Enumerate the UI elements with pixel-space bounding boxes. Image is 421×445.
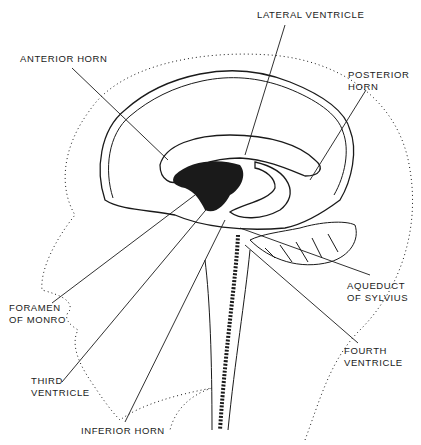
leader-anterior-horn <box>72 68 168 160</box>
ventricles-diagram: LATERAL VENTRICLE ANTERIOR HORN POSTERIO… <box>0 0 421 445</box>
label-inferior-horn: INFERIOR HORN <box>81 425 165 437</box>
label-lateral-ventricle: LATERAL VENTRICLE <box>257 9 364 21</box>
label-foramen-of-monro: FORAMEN OF MONRO <box>9 302 66 326</box>
leader-third-ventricle <box>62 205 210 382</box>
head-outline <box>42 54 413 440</box>
leader-fourth-ventricle <box>245 245 358 343</box>
label-fourth-ventricle: FOURTH VENTRICLE <box>344 345 403 369</box>
label-posterior-horn: POSTERIOR HORN <box>348 69 409 93</box>
label-aqueduct-of-sylvius: AQUEDUCT OF SYLVIUS <box>347 280 408 304</box>
leader-aqueduct <box>240 228 370 275</box>
spinal-canal <box>220 235 238 430</box>
label-third-ventricle: THIRD VENTRICLE <box>31 375 90 399</box>
label-anterior-horn: ANTERIOR HORN <box>20 53 108 65</box>
leader-lateral-ventricle <box>245 25 285 155</box>
